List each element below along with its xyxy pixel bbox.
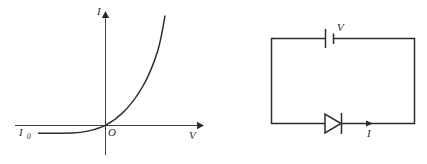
v-axis-arrowhead bbox=[197, 122, 204, 129]
saturation-current-label: I bbox=[18, 126, 24, 138]
diode-circuit-diagram: V I bbox=[271, 21, 415, 139]
diode-triangle bbox=[325, 114, 341, 133]
iv-curve bbox=[38, 16, 165, 134]
battery-label: V bbox=[337, 21, 345, 33]
saturation-current-subscript: 0 bbox=[27, 132, 31, 141]
battery-symbol bbox=[326, 29, 334, 48]
current-arrowhead bbox=[366, 121, 373, 127]
i-axis-arrowhead bbox=[102, 11, 109, 18]
diode-symbol bbox=[325, 113, 342, 134]
physics-figure: I 0 O V I bbox=[0, 0, 427, 164]
i-axis-label: I bbox=[96, 5, 102, 17]
v-axis-label: V bbox=[189, 129, 197, 141]
origin-label: O bbox=[108, 126, 116, 138]
iv-characteristic-plot: I 0 O V I bbox=[15, 5, 204, 155]
figure-container: I 0 O V I bbox=[0, 0, 427, 164]
current-label: I bbox=[366, 127, 372, 139]
